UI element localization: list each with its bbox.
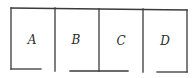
- room-label-b: B: [71, 33, 81, 47]
- room-label-a: A: [27, 33, 37, 47]
- rooms-diagram: A B C D: [0, 0, 196, 78]
- room-label-d: D: [159, 34, 170, 48]
- room-label-c: C: [116, 34, 125, 48]
